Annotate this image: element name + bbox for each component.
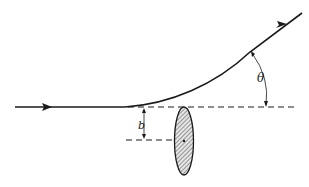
outgoing-arrow-icon	[276, 21, 287, 28]
b-arrow-up-icon	[142, 108, 146, 113]
scattering-diagram: b θ	[0, 0, 309, 187]
target-center-dot	[183, 140, 185, 142]
deflected-trajectory	[125, 13, 302, 107]
impact-parameter-label: b	[138, 119, 145, 132]
theta-arrow-bottom-icon	[264, 101, 268, 107]
scattering-angle-label: θ	[257, 71, 265, 85]
diagram-canvas: b θ	[0, 0, 309, 187]
b-arrow-down-icon	[142, 134, 146, 139]
